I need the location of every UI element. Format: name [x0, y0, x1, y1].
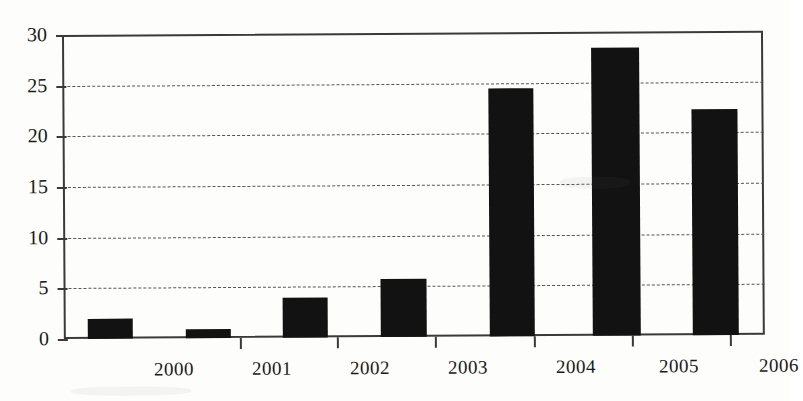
bar-2005 — [591, 48, 641, 336]
x-axis-label-2001: 2001 — [232, 359, 312, 380]
y-axis-tick-label: 10 — [8, 227, 48, 247]
bar-2000 — [88, 318, 133, 339]
y-axis-tick-label: 0 — [9, 328, 49, 348]
x-axis-ticks-group — [0, 0, 788, 2]
x-axis-labels-group: 2000200120022003200420052006 — [0, 0, 788, 2]
chart-skew-wrapper: 302520151050 200020012002200320042005200… — [0, 0, 790, 401]
y-axis-tick-label: 15 — [8, 176, 48, 196]
y-axis-tick-label: 30 — [7, 24, 47, 44]
y-axis-tick-label: 25 — [7, 75, 47, 95]
bar-2001 — [186, 329, 231, 338]
y-axis-tick-label: 5 — [8, 277, 48, 297]
x-axis-tick-mark — [632, 336, 634, 347]
x-axis-label-2005: 2005 — [639, 356, 719, 377]
bar-2002 — [283, 298, 328, 338]
x-axis-tick-mark — [534, 336, 536, 347]
x-axis-tick-mark — [337, 337, 339, 348]
x-axis-label-2006: 2006 — [739, 355, 803, 376]
x-axis-label-2002: 2002 — [330, 358, 410, 379]
scan-artifact — [71, 386, 191, 396]
y-axis-tick-mark — [58, 339, 68, 341]
x-axis-tick-mark — [435, 337, 437, 348]
bars-group — [62, 31, 765, 339]
y-axis-tick-label: 20 — [8, 125, 48, 145]
x-axis-label-2000: 2000 — [134, 359, 214, 380]
gridlines-group — [0, 0, 788, 2]
x-axis-label-2003: 2003 — [428, 357, 508, 378]
y-axis-ticks-group — [0, 0, 788, 2]
x-axis-tick-mark — [240, 338, 242, 349]
x-axis-tick-mark — [730, 335, 732, 346]
bar-2003 — [380, 279, 426, 337]
x-axis-label-2004: 2004 — [536, 357, 616, 378]
bar-2004 — [488, 88, 535, 337]
y-axis-labels-group: 302520151050 — [0, 0, 788, 2]
bar-2006 — [691, 109, 738, 335]
